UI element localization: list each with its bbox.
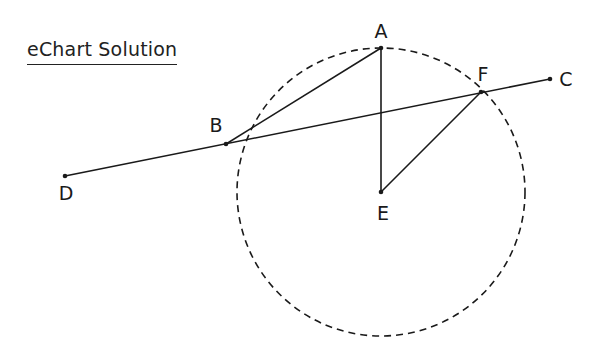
point-A	[379, 46, 384, 51]
label-B: B	[209, 114, 222, 136]
segment-EF	[381, 92, 481, 192]
label-F: F	[478, 63, 489, 85]
label-A: A	[375, 20, 388, 42]
point-C	[548, 77, 553, 82]
label-D: D	[59, 182, 74, 204]
label-C: C	[559, 68, 572, 90]
point-labels: ABCDEF	[59, 20, 573, 224]
label-E: E	[377, 202, 389, 224]
point-B	[224, 142, 229, 147]
segment-BA	[226, 48, 381, 144]
point-D	[63, 174, 68, 179]
geometry-diagram: ABCDEF	[0, 0, 600, 353]
point-E	[379, 190, 384, 195]
point-F	[479, 90, 484, 95]
